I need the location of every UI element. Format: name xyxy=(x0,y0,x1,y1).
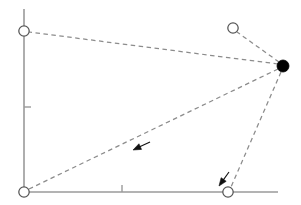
figure-canvas xyxy=(0,0,301,205)
axis-ticks-group xyxy=(24,107,122,192)
connector-line xyxy=(29,32,278,64)
connectors-group xyxy=(29,32,281,189)
data-point-open-marker xyxy=(19,26,29,36)
connector-line xyxy=(237,32,279,62)
arrows-group xyxy=(133,142,229,186)
arrowhead-icon xyxy=(219,178,226,186)
connector-line xyxy=(29,69,278,189)
connector-line xyxy=(231,72,281,187)
data-point-open-marker xyxy=(228,23,238,33)
scatter-plot xyxy=(0,0,301,205)
data-point-filled-marker xyxy=(277,60,289,72)
data-points-group xyxy=(19,23,289,197)
arrowhead-icon xyxy=(133,144,142,150)
data-point-open-marker xyxy=(223,187,233,197)
data-point-open-marker xyxy=(19,187,29,197)
